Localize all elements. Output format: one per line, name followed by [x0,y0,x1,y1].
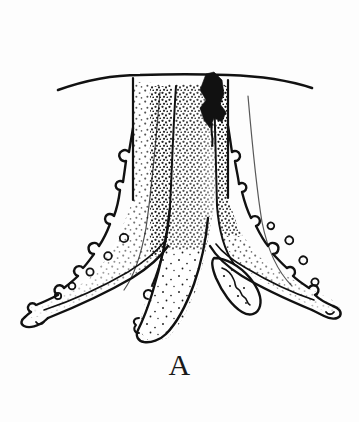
figure-label: A [0,348,359,382]
median-notch-tail [211,124,212,146]
figure-panel: A [0,0,359,422]
stipple-shading-right [210,78,359,328]
